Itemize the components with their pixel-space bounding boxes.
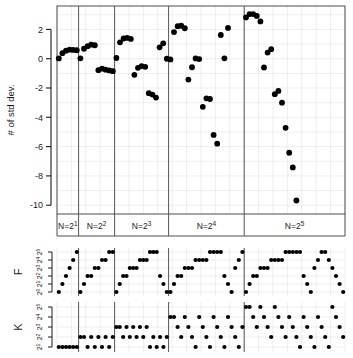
data-point — [172, 315, 176, 319]
data-point — [121, 335, 125, 339]
data-point — [182, 25, 188, 31]
panel-K-y-axis-tick-label: 23 — [35, 323, 43, 330]
data-point — [309, 335, 313, 339]
data-point — [233, 335, 237, 339]
data-point — [111, 335, 115, 339]
data-point — [298, 250, 302, 254]
data-point — [330, 266, 334, 270]
data-point — [312, 266, 316, 270]
data-point — [338, 282, 342, 286]
data-point — [60, 345, 64, 349]
data-point — [294, 335, 298, 339]
data-point — [248, 282, 252, 286]
data-point — [104, 258, 108, 262]
data-point — [312, 345, 316, 349]
figure-container: 20-2-4-6-8-10# of std dev.N=21N=22N=23N=… — [0, 0, 353, 358]
data-point — [219, 250, 223, 254]
data-point — [244, 305, 248, 309]
data-point — [183, 315, 187, 319]
data-point — [266, 325, 270, 329]
data-point — [284, 335, 288, 339]
group-label-1: N=21 — [58, 220, 78, 231]
data-point — [273, 305, 277, 309]
data-point — [309, 290, 313, 294]
data-point — [197, 315, 201, 319]
data-point — [71, 258, 75, 262]
y-axis-tick-label: -2 — [35, 83, 43, 93]
data-point — [225, 25, 231, 31]
data-point — [248, 305, 252, 309]
data-point — [142, 64, 148, 70]
data-point — [219, 335, 223, 339]
data-point — [155, 345, 159, 349]
data-point — [255, 274, 259, 278]
data-point — [197, 258, 201, 262]
data-point — [286, 150, 292, 156]
data-point — [323, 335, 327, 339]
data-point — [222, 345, 226, 349]
data-point — [161, 282, 165, 286]
data-point — [261, 65, 267, 71]
data-point — [179, 274, 183, 278]
data-point — [214, 141, 220, 147]
data-point — [145, 325, 149, 329]
data-point — [93, 266, 97, 270]
data-point — [251, 315, 255, 319]
figure-canvas: 20-2-4-6-8-10# of std dev.N=21N=22N=23N=… — [0, 0, 353, 358]
data-point — [107, 345, 111, 349]
data-point — [134, 266, 138, 270]
data-point — [128, 36, 134, 42]
data-point — [237, 345, 241, 349]
panel-F-y-axis-tick-label: 20 — [35, 288, 43, 295]
group-label-5: N=25 — [285, 220, 305, 231]
data-point — [276, 258, 280, 262]
data-point — [89, 335, 93, 339]
data-point — [68, 345, 72, 349]
data-point — [179, 335, 183, 339]
y-axis-tick-label: 2 — [38, 25, 43, 35]
panel-K-y-axis-tick-label: 22 — [35, 333, 43, 340]
data-point — [240, 250, 244, 254]
data-point — [341, 290, 345, 294]
data-point — [132, 72, 138, 78]
data-point — [294, 198, 300, 204]
data-point — [212, 315, 216, 319]
data-point — [280, 325, 284, 329]
data-point — [208, 345, 212, 349]
data-point — [284, 250, 288, 254]
data-point — [145, 258, 149, 262]
y-axis-tick-label: -4 — [35, 113, 43, 123]
data-point — [82, 335, 86, 339]
data-point — [327, 258, 331, 262]
data-point — [291, 325, 295, 329]
main-panel: 20-2-4-6-8-10# of std dev. — [5, 6, 345, 236]
data-point — [276, 315, 280, 319]
data-point — [186, 266, 190, 270]
data-point — [190, 266, 194, 270]
main-y-axis: 20-2-4-6-8-10 — [30, 25, 51, 211]
panel-K-y-axis-tick-label: 21 — [35, 343, 43, 350]
data-point — [323, 250, 327, 254]
data-point — [230, 290, 234, 294]
data-point — [298, 345, 302, 349]
data-point — [86, 345, 90, 349]
data-point — [134, 335, 138, 339]
data-point — [341, 335, 345, 339]
data-point — [96, 335, 100, 339]
data-point — [302, 274, 306, 278]
data-point — [280, 258, 284, 262]
panel-F-y-axis-tick-label: 25 — [35, 248, 43, 255]
data-point — [305, 325, 309, 329]
data-point — [168, 290, 172, 294]
panel-F-gridlines — [57, 248, 345, 296]
data-point — [258, 305, 262, 309]
data-point — [124, 274, 128, 278]
data-point — [244, 290, 248, 294]
data-point — [176, 274, 180, 278]
data-point — [86, 274, 90, 278]
data-point — [279, 100, 285, 106]
data-point — [75, 250, 79, 254]
data-point — [74, 47, 80, 53]
data-point — [194, 345, 198, 349]
data-point — [266, 266, 270, 270]
